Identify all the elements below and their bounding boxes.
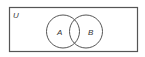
venn-diagram: U A B — [0, 0, 145, 57]
set-a-label: A — [56, 28, 62, 37]
set-b-circle — [70, 15, 103, 48]
set-b-label: B — [88, 28, 94, 37]
universe-rectangle — [10, 8, 138, 52]
universe-label: U — [13, 11, 19, 20]
